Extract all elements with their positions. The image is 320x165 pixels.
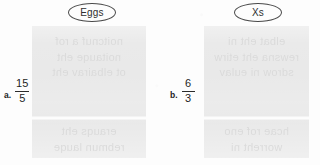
problem-item-a: a. 15 5 xyxy=(4,78,29,105)
showthrough-line: hcae rof eno xyxy=(204,124,309,140)
column-heading-label-xs: Xs xyxy=(252,7,264,17)
fraction-numerator: 15 xyxy=(15,78,29,90)
column-heading-oval-xs: Xs xyxy=(234,3,282,22)
column-heading-label-eggs: Eggs xyxy=(80,7,104,17)
showthrough-line: noitcnuf a rof xyxy=(32,34,146,50)
fraction-a: 15 5 xyxy=(15,78,29,105)
problem-item-b: b. 6 3 xyxy=(170,78,195,105)
showthrough-line: noitauqe eht xyxy=(32,50,146,66)
fraction-denominator: 3 xyxy=(184,93,192,105)
fraction-b: 6 3 xyxy=(182,78,195,105)
showthrough-line: elbat eht ni xyxy=(204,34,309,50)
panel-tone-right xyxy=(204,26,309,158)
page-crease-right xyxy=(204,116,309,120)
fraction-denominator: 5 xyxy=(18,93,26,105)
showthrough-line: rebmun lauqe xyxy=(32,140,146,156)
answer-panel-eggs: noitcnuf a rof noitauqe eht ot elbairav … xyxy=(32,26,146,158)
showthrough-text-right-top: elbat eht ni rewsna eht etirw sdrow ni e… xyxy=(204,34,309,81)
showthrough-line: erauqs eht xyxy=(32,124,146,140)
showthrough-line: worreht ni xyxy=(204,140,309,156)
panel-tone-left xyxy=(32,26,146,158)
problem-letter-a: a. xyxy=(4,91,11,100)
problem-letter-b: b. xyxy=(170,91,178,100)
showthrough-text-left-top: noitcnuf a rof noitauqe eht ot elbairav … xyxy=(32,34,146,81)
showthrough-line: sdrow ni eulav xyxy=(204,65,309,81)
showthrough-line: rewsna eht etirw xyxy=(204,50,309,66)
answer-panel-xs: elbat eht ni rewsna eht etirw sdrow ni e… xyxy=(204,26,309,158)
showthrough-text-right-bottom: hcae rof eno worreht ni xyxy=(204,124,309,155)
page-crease-left xyxy=(32,116,146,120)
showthrough-text-left-bottom: erauqs eht rebmun lauqe xyxy=(32,124,146,155)
worksheet-page: Eggs noitcnuf a rof noitauqe eht ot elba… xyxy=(0,0,320,165)
fraction-numerator: 6 xyxy=(184,78,192,90)
column-heading-oval-eggs: Eggs xyxy=(68,3,116,22)
showthrough-line: ot elbairav eht xyxy=(32,65,146,81)
